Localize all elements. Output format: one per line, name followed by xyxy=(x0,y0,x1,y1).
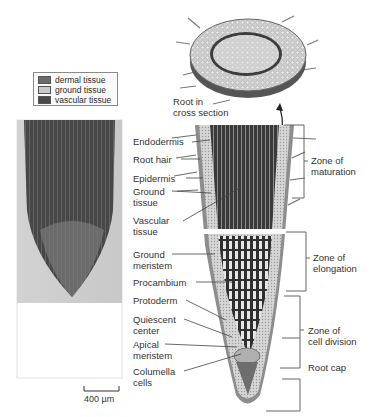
label-protoderm: Protoderm xyxy=(133,295,177,306)
label-procambium: Procambium xyxy=(133,277,186,288)
zone-root-cap: Root cap xyxy=(308,362,346,373)
label-endodermis: Endodermis xyxy=(133,136,184,147)
micrograph-panel xyxy=(17,120,122,391)
cross-section-disc xyxy=(176,16,318,98)
root-longitudinal xyxy=(172,125,316,404)
label-ground-tissue: Groundtissue xyxy=(133,186,165,208)
zone-cell-division: Zone ofcell division xyxy=(308,325,357,347)
cross-section-label-line1: Root in xyxy=(173,96,228,107)
zone-elongation: Zone ofelongation xyxy=(313,252,357,274)
scale-bar-label: 400 µm xyxy=(84,394,114,405)
label-quiescent-center: Quiescentcenter xyxy=(133,314,176,336)
label-epidermis: Epidermis xyxy=(133,173,175,184)
zone-maturation: Zone ofmaturation xyxy=(311,155,356,177)
cross-section-label: Root in cross section xyxy=(173,96,228,118)
label-vascular-tissue: Vasculartissue xyxy=(133,215,169,237)
label-root-hair: Root hair xyxy=(133,154,172,165)
root-diagram-graphics xyxy=(0,0,377,417)
label-ground-meristem: Groundmeristem xyxy=(133,249,172,271)
cross-section-label-line2: cross section xyxy=(173,107,228,118)
label-columella-cells: Columellacells xyxy=(133,366,175,388)
label-apical-meristem: Apicalmeristem xyxy=(133,339,172,361)
